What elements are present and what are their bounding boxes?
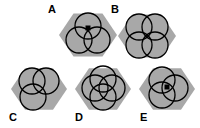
option-label-b: B <box>111 3 119 15</box>
option-label-c: C <box>9 111 17 123</box>
shape-puzzle-canvas: ABCDE <box>0 0 200 128</box>
center-dot-a <box>86 26 91 31</box>
center-dot-e <box>165 85 170 90</box>
option-label-e: E <box>140 111 147 123</box>
option-label-a: A <box>48 3 56 15</box>
option-label-d: D <box>75 111 83 123</box>
